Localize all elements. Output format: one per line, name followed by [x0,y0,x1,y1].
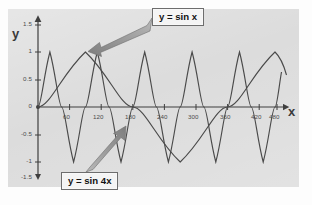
y-axis-title: y [12,26,19,41]
y-tick-label-neg1_5: -1.5 [10,173,32,180]
y-tick-label-1: 1 [12,47,32,54]
x-tick-label-300: 300 [188,113,199,120]
annotation-label-sin-4x: y = sin 4x [61,172,118,190]
x-tick-label-480: 480 [269,113,280,120]
annotation-label-sin-x: y = sin x [152,8,204,26]
annotation-arrow-sin-x-icon [88,18,152,57]
chart-figure: 1.5 1 0.5 0 -0.5 -1 -1.5 60 120 180 240 … [0,0,312,205]
y-tick-label-0_5: 0.5 [12,75,32,82]
x-tick-label-120: 120 [93,113,104,120]
y-tick-label-neg1: -1 [10,157,32,164]
x-tick-label-420: 420 [251,113,262,120]
annotation-arrows-layer [0,0,312,205]
x-tick-label-60: 60 [63,113,70,120]
y-tick-label-0: 0 [12,102,32,109]
annotation-arrow-sin-4x-icon [86,126,126,172]
x-axis-title: x [288,104,295,119]
x-tick-label-240: 240 [157,113,168,120]
x-tick-label-360: 360 [220,113,231,120]
x-tick-label-180: 180 [125,113,136,120]
y-tick-label-neg0_5: -0.5 [10,130,32,137]
